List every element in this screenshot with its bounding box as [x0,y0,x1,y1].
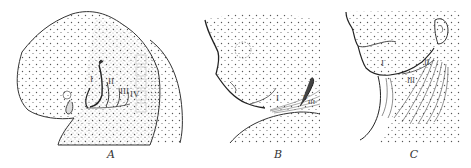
panel-a: I II III IV A [0,0,165,168]
panel-caption-b: B [274,148,282,161]
embryo-b-illustration: I II III [150,0,320,150]
arch-label-a-1: I [90,74,93,84]
arch-label-a-2: II [108,76,114,86]
panel-c: I II III C [310,0,471,168]
embryo-c-illustration: I II III [310,0,471,150]
arch-label-a-4: IV [130,89,140,99]
embryo-a-illustration: I II III IV [0,0,165,150]
arch-label-c-2: II [424,58,430,67]
arch-label-b-1: I [276,93,279,103]
arch-label-c-1: I [381,58,384,68]
arch-label-a-3: III [120,86,129,96]
arch-label-c-3: III [407,76,415,85]
panel-caption-a: A [107,148,115,161]
panel-caption-c: C [410,148,418,161]
panel-b: I II III B [150,0,320,168]
